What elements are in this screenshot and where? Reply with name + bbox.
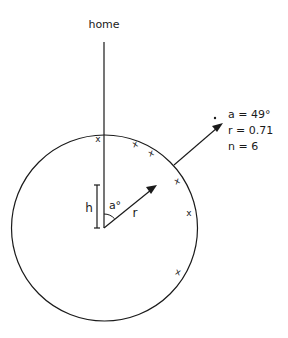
observation-marker-icon: x	[95, 134, 101, 144]
angle-label: a°	[109, 199, 121, 212]
stat-n: n = 6	[228, 140, 258, 153]
mean-direction-line	[174, 128, 217, 165]
observation-marker-icon: x	[131, 138, 139, 149]
angle-arc	[104, 214, 115, 219]
observation-marker-icon: x	[174, 266, 182, 277]
vector-label: r	[133, 206, 138, 220]
observation-marker-icon: x	[186, 208, 192, 218]
circular-orientation-diagram: home h a° r a = 49° r = 0.71 n = 6 x x x…	[0, 0, 288, 338]
direction-dot-icon	[214, 117, 216, 119]
stat-r: r = 0.71	[228, 124, 273, 137]
observation-marker-icon: x	[173, 175, 182, 186]
home-label: home	[88, 18, 119, 31]
height-label: h	[85, 201, 93, 215]
stat-angle: a = 49°	[228, 108, 270, 121]
height-bracket	[94, 185, 100, 228]
